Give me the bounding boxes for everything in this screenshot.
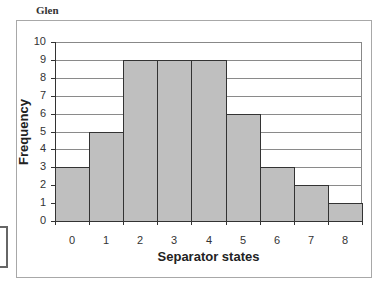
x-tick-label: 0 — [62, 234, 82, 246]
x-tick-label: 1 — [96, 234, 116, 246]
x-axis — [55, 221, 362, 222]
x-tick-mark — [328, 221, 329, 225]
bar-8 — [328, 203, 363, 221]
x-tick-label: 2 — [130, 234, 150, 246]
y-axis — [55, 42, 56, 222]
y-tick-mark — [51, 78, 55, 79]
x-tick-mark — [226, 221, 227, 225]
bar-0 — [55, 167, 90, 221]
y-tick-label: 0 — [28, 214, 46, 226]
x-tick-mark — [89, 221, 90, 225]
y-tick-mark — [51, 42, 55, 43]
y-tick-mark — [51, 132, 55, 133]
x-tick-label: 8 — [335, 234, 355, 246]
x-tick-label: 4 — [199, 234, 219, 246]
x-tick-mark — [191, 221, 192, 225]
x-tick-mark — [55, 221, 56, 225]
x-tick-label: 5 — [233, 234, 253, 246]
bar-6 — [260, 167, 295, 221]
y-tick-mark — [51, 60, 55, 61]
y-tick-mark — [51, 167, 55, 168]
y-tick-mark — [51, 185, 55, 186]
y-tick-label: 2 — [28, 178, 46, 190]
y-tick-mark — [51, 149, 55, 150]
y-tick-label: 10 — [28, 35, 46, 47]
y-tick-label: 9 — [28, 53, 46, 65]
y-tick-label: 1 — [28, 196, 46, 208]
x-tick-mark — [157, 221, 158, 225]
x-tick-label: 7 — [301, 234, 321, 246]
side-box — [0, 226, 8, 268]
y-tick-mark — [51, 203, 55, 204]
y-tick-label: 8 — [28, 71, 46, 83]
y-axis-title: Frequency — [16, 99, 31, 165]
bar-4 — [191, 60, 227, 221]
x-tick-mark — [123, 221, 124, 225]
x-tick-mark — [362, 221, 363, 225]
y-tick-mark — [51, 96, 55, 97]
y-tick-mark — [51, 114, 55, 115]
bar-1 — [89, 132, 124, 221]
bar-3 — [157, 60, 192, 221]
chart-title: Glen — [36, 4, 59, 16]
bar-7 — [294, 185, 329, 221]
bar-5 — [226, 114, 261, 221]
x-tick-label: 6 — [267, 234, 287, 246]
x-tick-label: 3 — [164, 234, 184, 246]
bar-2 — [123, 60, 158, 221]
x-tick-mark — [260, 221, 261, 225]
x-axis-title: Separator states — [55, 249, 362, 264]
x-tick-mark — [294, 221, 295, 225]
